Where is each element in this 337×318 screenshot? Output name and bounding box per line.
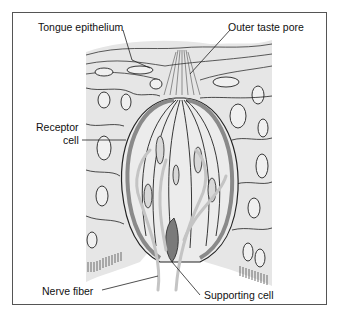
label-nerve-fiber: Nerve fiber [42,285,93,297]
taste-bud-illustration [0,0,337,318]
label-tongue-epithelium: Tongue epithelium [38,21,123,33]
label-receptor-cell-line2: cell [63,134,79,146]
label-supporting-cell: Supporting cell [204,289,273,301]
leader-nerve-fiber [102,276,158,290]
label-receptor-cell-line1: Receptor [36,121,79,133]
label-outer-taste-pore: Outer taste pore [228,21,304,33]
